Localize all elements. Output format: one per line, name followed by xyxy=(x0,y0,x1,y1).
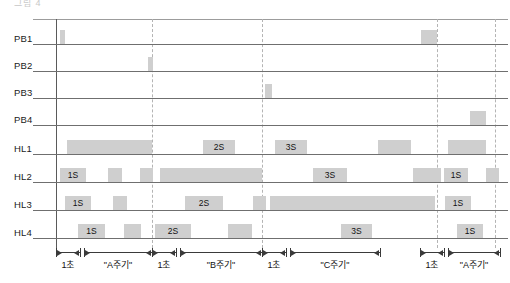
bar-label-hl3-0: 1S xyxy=(65,198,91,208)
row-label-HL2: HL2 xyxy=(14,171,32,182)
axis-arrow-left-b1 xyxy=(153,250,158,256)
bar-hl2-3 xyxy=(160,168,262,182)
baseline-PB2 xyxy=(33,71,508,72)
dashed-guide-2 xyxy=(262,19,263,248)
bar-hl4-3 xyxy=(228,224,252,238)
bar-label-hl1-1: 2S xyxy=(203,142,235,152)
bar-hl3-4 xyxy=(270,196,435,210)
bar-label-hl3-2: 2S xyxy=(185,198,223,208)
bar-label-hl4-2: 2S xyxy=(155,226,191,236)
axis-tick-b1-1 xyxy=(176,248,177,257)
bar-pb1-0 xyxy=(60,30,65,44)
bar-pb4-0 xyxy=(470,111,486,125)
axis-arrow-right-d1 xyxy=(438,250,443,256)
row-label-HL4: HL4 xyxy=(14,227,32,238)
axis-arrow-right-d2 xyxy=(494,250,499,256)
axis-tick-c1-1 xyxy=(286,248,287,257)
row-label-PB2: PB2 xyxy=(14,60,33,71)
row-label-HL3: HL3 xyxy=(14,199,32,210)
axis-arrow-right-c2 xyxy=(374,250,379,256)
figure-caption-clipped: 그림 4 xyxy=(14,0,42,9)
axis-arrow-left-c1 xyxy=(263,250,268,256)
dashed-guide-4 xyxy=(495,19,496,248)
bar-label-hl2-0: 1S xyxy=(60,170,86,180)
axis-arrow-left-b2 xyxy=(181,250,186,256)
axis-arrow-left-a1 xyxy=(57,250,62,256)
baseline-HL2 xyxy=(33,182,508,183)
axis-tick-c2-1 xyxy=(380,248,381,257)
baseline-PB4 xyxy=(33,125,508,126)
bar-pb3-0 xyxy=(265,84,272,98)
vertical-axis xyxy=(56,19,57,248)
bar-hl2-5 xyxy=(413,168,441,182)
axis-span-line-b2 xyxy=(180,252,262,253)
bar-hl2-7 xyxy=(486,168,499,182)
axis-caption-c2: "C주기" xyxy=(270,258,400,271)
bar-label-hl2-4: 3S xyxy=(313,170,347,180)
axis-arrow-right-c1 xyxy=(280,250,285,256)
axis-arrow-right-a1 xyxy=(74,250,79,256)
axis-caption-d2: "A주기" xyxy=(428,258,510,271)
bar-label-hl4-5: 1S xyxy=(457,226,483,236)
axis-arrow-left-a2 xyxy=(85,250,90,256)
row-label-PB3: PB3 xyxy=(14,87,33,98)
axis-arrow-right-b2 xyxy=(256,250,261,256)
axis-span-line-c2 xyxy=(290,252,380,253)
bar-hl2-1 xyxy=(108,168,122,182)
axis-arrow-left-d2 xyxy=(449,250,454,256)
bar-label-hl3-5: 1S xyxy=(445,198,471,208)
bar-label-hl2-6: 1S xyxy=(444,170,468,180)
bar-hl3-3 xyxy=(253,196,266,210)
row-label-PB1: PB1 xyxy=(14,33,33,44)
baseline-HL4 xyxy=(33,238,508,239)
axis-arrow-left-c2 xyxy=(291,250,296,256)
bar-hl2-2 xyxy=(140,168,153,182)
bar-hl1-0 xyxy=(67,140,152,154)
row-label-PB4: PB4 xyxy=(14,114,33,125)
axis-arrow-right-a2 xyxy=(146,250,151,256)
axis-span-line-d2 xyxy=(448,252,500,253)
axis-arrow-right-b1 xyxy=(170,250,175,256)
bar-pb1-1 xyxy=(421,30,437,44)
bar-hl1-3 xyxy=(378,140,411,154)
bar-hl1-4 xyxy=(448,140,486,154)
baseline-PB3 xyxy=(33,98,508,99)
bar-hl4-1 xyxy=(124,224,141,238)
baseline-PB1 xyxy=(33,44,508,45)
axis-span-line-a2 xyxy=(84,252,152,253)
baseline-HL1 xyxy=(33,154,508,155)
row-label-HL1: HL1 xyxy=(14,143,32,154)
axis-tick-a1-1 xyxy=(80,248,81,257)
bar-hl3-1 xyxy=(113,196,127,210)
axis-tick-d1-1 xyxy=(444,248,445,257)
axis-tick-d2-1 xyxy=(500,248,501,257)
bar-pb2-0 xyxy=(148,57,153,71)
bar-label-hl1-2: 3S xyxy=(275,142,307,152)
dashed-guide-1 xyxy=(152,19,153,248)
bar-label-hl4-0: 1S xyxy=(78,226,105,236)
axis-arrow-left-d1 xyxy=(421,250,426,256)
bar-label-hl4-4: 3S xyxy=(341,226,372,236)
timing-diagram: 그림 4 PB1 PB2 PB3 PB4 HL1 HL2 HL3 HL4 2S3… xyxy=(0,0,510,283)
dashed-guide-3 xyxy=(437,19,438,248)
baseline-HL3 xyxy=(33,210,508,211)
